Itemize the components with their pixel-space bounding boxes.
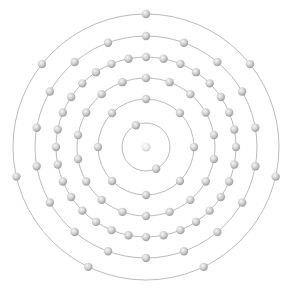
electron-icon bbox=[59, 177, 67, 185]
electron-icon bbox=[108, 109, 116, 117]
electron-icon bbox=[97, 196, 105, 204]
electron-icon bbox=[186, 196, 194, 204]
electron-icon bbox=[104, 38, 112, 46]
electron-icon bbox=[152, 165, 160, 173]
electron-icon bbox=[70, 228, 78, 236]
electron-icon bbox=[104, 247, 112, 255]
electron-icon bbox=[46, 198, 54, 206]
electron-icon bbox=[92, 218, 100, 226]
electron-icon bbox=[142, 233, 150, 241]
electron-icon bbox=[192, 68, 200, 76]
electron-icon bbox=[251, 124, 259, 132]
electron-icon bbox=[54, 160, 62, 168]
electron-icon bbox=[142, 32, 150, 40]
electron-icon bbox=[205, 79, 213, 87]
electron-icon bbox=[67, 193, 75, 201]
electron-icon bbox=[238, 198, 246, 206]
electron-icon bbox=[52, 143, 60, 151]
electron-icon bbox=[213, 228, 221, 236]
electron-icon bbox=[70, 58, 78, 66]
electron-icon bbox=[124, 55, 132, 63]
electron-icon bbox=[82, 108, 90, 116]
electron-icon bbox=[142, 95, 150, 103]
electron-icon bbox=[210, 131, 218, 139]
electrons bbox=[12, 10, 280, 271]
electron-icon bbox=[217, 93, 225, 101]
electron-icon bbox=[142, 53, 150, 61]
electron-icon bbox=[202, 177, 210, 185]
electron-icon bbox=[165, 78, 173, 86]
electron-icon bbox=[132, 121, 140, 129]
electron-icon bbox=[190, 143, 198, 151]
electron-icon bbox=[225, 108, 233, 116]
electron-icon bbox=[202, 108, 210, 116]
electron-icon bbox=[78, 79, 86, 87]
electron-icon bbox=[142, 212, 150, 220]
electron-icon bbox=[186, 90, 194, 98]
electron-icon bbox=[210, 155, 218, 163]
electron-icon bbox=[180, 247, 188, 255]
electron-icon bbox=[32, 124, 40, 132]
electron-icon bbox=[213, 58, 221, 66]
electron-icon bbox=[46, 87, 54, 95]
electron-icon bbox=[107, 60, 115, 68]
electron-icon bbox=[38, 60, 46, 68]
electron-icon bbox=[12, 172, 20, 180]
nucleus bbox=[142, 143, 151, 152]
electron-icon bbox=[118, 78, 126, 86]
electron-icon bbox=[82, 177, 90, 185]
electron-icon bbox=[232, 143, 240, 151]
electron-icon bbox=[118, 208, 126, 216]
electron-icon bbox=[251, 162, 259, 170]
electron-icon bbox=[142, 191, 150, 199]
electron-icon bbox=[238, 87, 246, 95]
electron-icon bbox=[124, 231, 132, 239]
electron-icon bbox=[230, 125, 238, 133]
electron-icon bbox=[97, 90, 105, 98]
electron-icon bbox=[107, 226, 115, 234]
electron-icon bbox=[271, 172, 279, 180]
electron-icon bbox=[92, 68, 100, 76]
bohr-atom-diagram bbox=[0, 0, 286, 295]
electron-icon bbox=[142, 254, 150, 262]
electron-icon bbox=[142, 10, 150, 18]
electron-icon bbox=[165, 208, 173, 216]
electron-icon bbox=[217, 193, 225, 201]
electron-icon bbox=[230, 160, 238, 168]
electron-icon bbox=[159, 55, 167, 63]
electron-icon bbox=[176, 60, 184, 68]
electron-icon bbox=[225, 177, 233, 185]
electron-icon bbox=[176, 177, 184, 185]
electron-icon bbox=[180, 38, 188, 46]
electron-icon bbox=[74, 131, 82, 139]
electron-icon bbox=[192, 218, 200, 226]
electron-icon bbox=[205, 206, 213, 214]
electron-icon bbox=[159, 231, 167, 239]
electron-icon bbox=[200, 263, 208, 271]
electron-icon bbox=[32, 162, 40, 170]
electron-icon bbox=[176, 109, 184, 117]
electron-icon bbox=[59, 108, 67, 116]
electron-icon bbox=[94, 143, 102, 151]
electron-icon bbox=[54, 125, 62, 133]
electron-icon bbox=[78, 206, 86, 214]
electron-icon bbox=[176, 226, 184, 234]
electron-icon bbox=[67, 93, 75, 101]
electron-icon bbox=[246, 60, 254, 68]
electron-icon bbox=[142, 74, 150, 82]
electron-icon bbox=[84, 263, 92, 271]
electron-icon bbox=[108, 177, 116, 185]
electron-icon bbox=[74, 155, 82, 163]
